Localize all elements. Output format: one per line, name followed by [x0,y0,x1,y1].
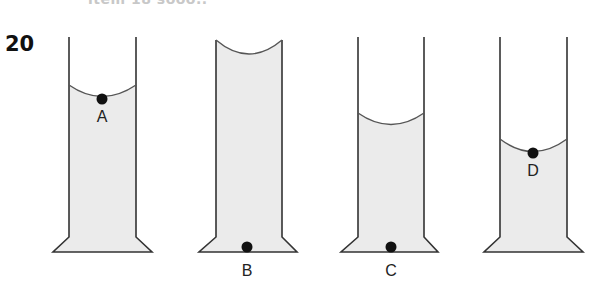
point-c-dot [386,242,397,253]
point-b-dot [242,242,253,253]
tube-1: A [53,37,152,252]
point-a-dot [97,94,108,105]
point-b-label: B [242,262,253,279]
tube-2: B [199,40,297,279]
tube-4: D [484,37,583,252]
point-a-label: A [97,108,108,125]
point-c-label: C [385,262,397,279]
point-d-dot [528,148,539,159]
point-d-label: D [527,162,539,179]
tubes-diagram: A B C D [0,0,596,288]
tube-3: C [341,37,438,279]
